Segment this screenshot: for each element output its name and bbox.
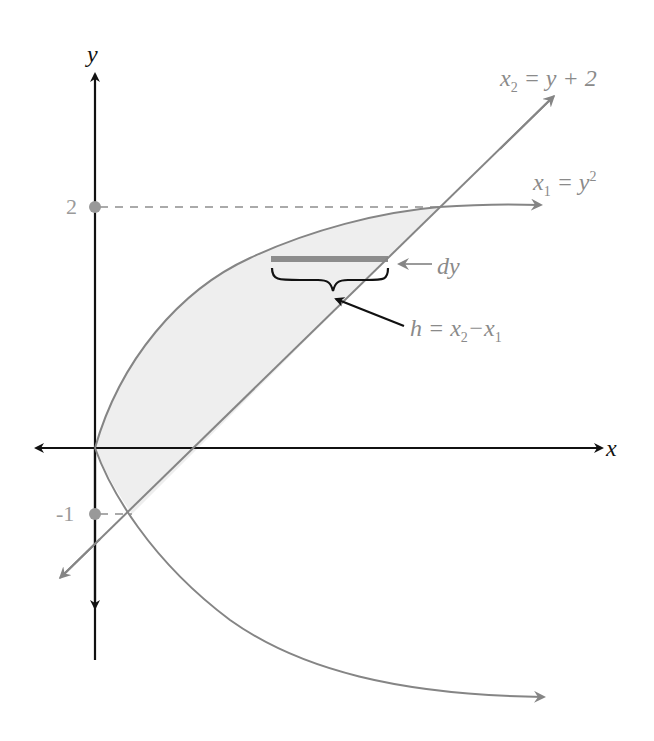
diagram-canvas xyxy=(0,0,654,741)
dy-label: dy xyxy=(437,254,460,278)
parabola-equation-label: x1 = y2 xyxy=(533,170,597,199)
height-label: h = x2−x1 xyxy=(410,316,502,345)
parabola-x1-lower xyxy=(95,448,543,697)
y-axis-label: y xyxy=(87,42,98,66)
line-equation-label: x2 = y + 2 xyxy=(500,66,597,95)
h-pointer xyxy=(336,299,404,326)
tick-y-neg1 xyxy=(89,508,101,520)
line-x2-arrow-up xyxy=(500,97,553,149)
tick-label-2: 2 xyxy=(66,196,77,218)
tick-label-neg1: -1 xyxy=(56,503,74,525)
shaded-region xyxy=(95,207,439,514)
x-axis-label: x xyxy=(606,436,617,460)
tick-y2 xyxy=(89,201,101,213)
